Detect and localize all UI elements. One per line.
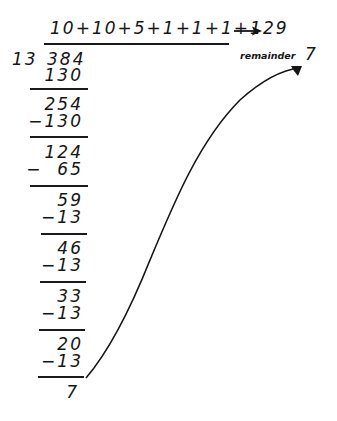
long-division-diagram: 10+10+5+1+1+1+1 29 13 384 130 254 −130 1… [0,0,337,421]
right-arrow-icon [234,27,262,36]
arrows-layer [0,0,337,421]
curved-arrow-icon [86,66,302,378]
